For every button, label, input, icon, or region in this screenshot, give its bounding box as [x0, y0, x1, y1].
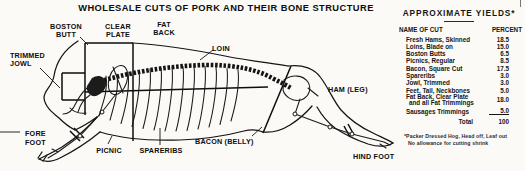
yield-row: Spareribs 3.0: [393, 72, 525, 79]
total-value: 100: [489, 118, 509, 125]
yield-cut-name: Fresh Hams, Skinned: [406, 36, 489, 43]
label-clear-plate: PLATE: [106, 30, 130, 39]
yield-row: Fresh Hams, Skinned 18.5: [393, 36, 525, 43]
label-fore-foot: FORE: [25, 129, 46, 138]
yield-cut-name: Sausages Trimmings: [406, 108, 489, 115]
yield-row: Fat Back, Clear Plate and all Fat Trimmi…: [393, 94, 525, 107]
yield-percent: 5.0: [489, 107, 509, 115]
header-name-of-cut: NAME OF CUT: [399, 26, 443, 33]
label-bacon-belly: BACON (BELLY): [195, 137, 254, 146]
pork-cuts-poster: WHOLESALE CUTS OF PORK AND THEIR BONE ST…: [0, 0, 525, 171]
yield-cut-name: Loins, Blade on: [406, 43, 489, 50]
label-picnic: PICNIC: [96, 146, 122, 155]
footnote-line2: No allowance for cutting shrink: [393, 140, 525, 147]
pork-bone-structure-diagram: BOSTON BUTT CLEAR PLATE FAT BACK LOIN TR…: [0, 0, 402, 171]
yield-cut-name-line2: and all Fat Trimmings: [406, 100, 489, 107]
label-trimmed-jowl: JOWL: [10, 59, 32, 68]
yield-row: Bacon, Square Cut 17.5: [393, 65, 525, 72]
label-fat-back: BACK: [153, 28, 175, 37]
label-spareribs: SPARERIBS: [139, 146, 182, 155]
total-label: Total: [406, 118, 489, 125]
label-ham-leg: HAM (LEG): [328, 85, 368, 94]
yield-row: Loins, Blade on 15.0: [393, 43, 525, 50]
yield-cut-name: Jowl, Trimmed: [406, 79, 489, 86]
label-fore-foot: FOOT: [25, 138, 46, 147]
yields-table-body: Fresh Hams, Skinned 18.5 Loins, Blade on…: [393, 36, 525, 126]
yield-row: Boston Butts 6.5: [393, 50, 525, 57]
yields-title: APPROXIMATE YIELDS*: [393, 8, 525, 18]
cut-labels: BOSTON BUTT CLEAR PLATE FAT BACK LOIN TR…: [10, 20, 395, 161]
yield-percent: 5.0: [489, 87, 509, 94]
yield-cut-name: Fat Back, Clear Plate and all Fat Trimmi…: [406, 94, 489, 107]
header-percent: PERCENT: [492, 26, 522, 33]
footnote-line1: *Packer Dressed Hog, Head off, Leaf out: [393, 133, 525, 140]
yield-percent: 15.0: [489, 43, 509, 50]
label-hind-foot: HIND FOOT: [353, 152, 395, 161]
yield-cut-name: Boston Butts: [406, 50, 489, 57]
yield-total-row: Total 100: [393, 118, 525, 125]
yield-cut-name: Spareribs: [406, 72, 489, 79]
yield-row: Picnics, Regular 8.5: [393, 57, 525, 64]
yield-cut-name: Picnics, Regular: [406, 57, 489, 64]
yield-percent: 3.0: [489, 72, 509, 79]
yield-row: Jowl, Trimmed 3.0: [393, 79, 525, 86]
label-boston-butt: BUTT: [56, 30, 76, 39]
yield-cut-name: Bacon, Square Cut: [406, 65, 489, 72]
yield-percent: 3.0: [489, 79, 509, 86]
yield-percent: 17.5: [489, 65, 509, 72]
yield-percent: 18.5: [489, 36, 509, 43]
label-loin: LOIN: [212, 44, 230, 53]
yield-percent: 6.5: [489, 50, 509, 57]
yields-table-header: NAME OF CUT PERCENT: [393, 26, 525, 33]
title-rule: [444, 21, 474, 22]
yield-row: Sausages Trimmings 5.0: [393, 107, 525, 115]
rib-cage: [99, 66, 238, 131]
yield-percent: 8.5: [489, 57, 509, 64]
yield-percent: 18.0: [489, 97, 509, 104]
approximate-yields-panel: APPROXIMATE YIELDS* NAME OF CUT PERCENT …: [393, 0, 525, 171]
